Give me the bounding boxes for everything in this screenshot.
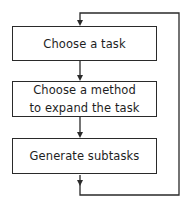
step-label: Generate subtasks <box>30 147 140 165</box>
step-generate-subtasks: Generate subtasks <box>12 138 157 174</box>
arrow-out-of-generate-subtasks <box>77 180 83 186</box>
step-choose-task: Choose a task <box>12 26 157 61</box>
step-label: Choose a task <box>43 35 125 53</box>
step-label-line-2: to expand the task <box>29 99 139 117</box>
step-label-line-1: Choose a method <box>33 81 136 99</box>
step-choose-method: Choose a method to expand the task <box>12 81 157 117</box>
